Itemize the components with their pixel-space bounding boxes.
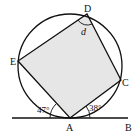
label-B: B	[125, 122, 132, 133]
circle-geometry-diagram: D E C A B 47° 38° d	[0, 0, 135, 135]
label-E: E	[10, 56, 16, 67]
label-A: A	[66, 122, 74, 133]
angle-label-47: 47°	[37, 105, 50, 115]
label-C: C	[122, 77, 129, 88]
angle-label-38: 38°	[89, 103, 102, 113]
label-D: D	[84, 3, 91, 14]
